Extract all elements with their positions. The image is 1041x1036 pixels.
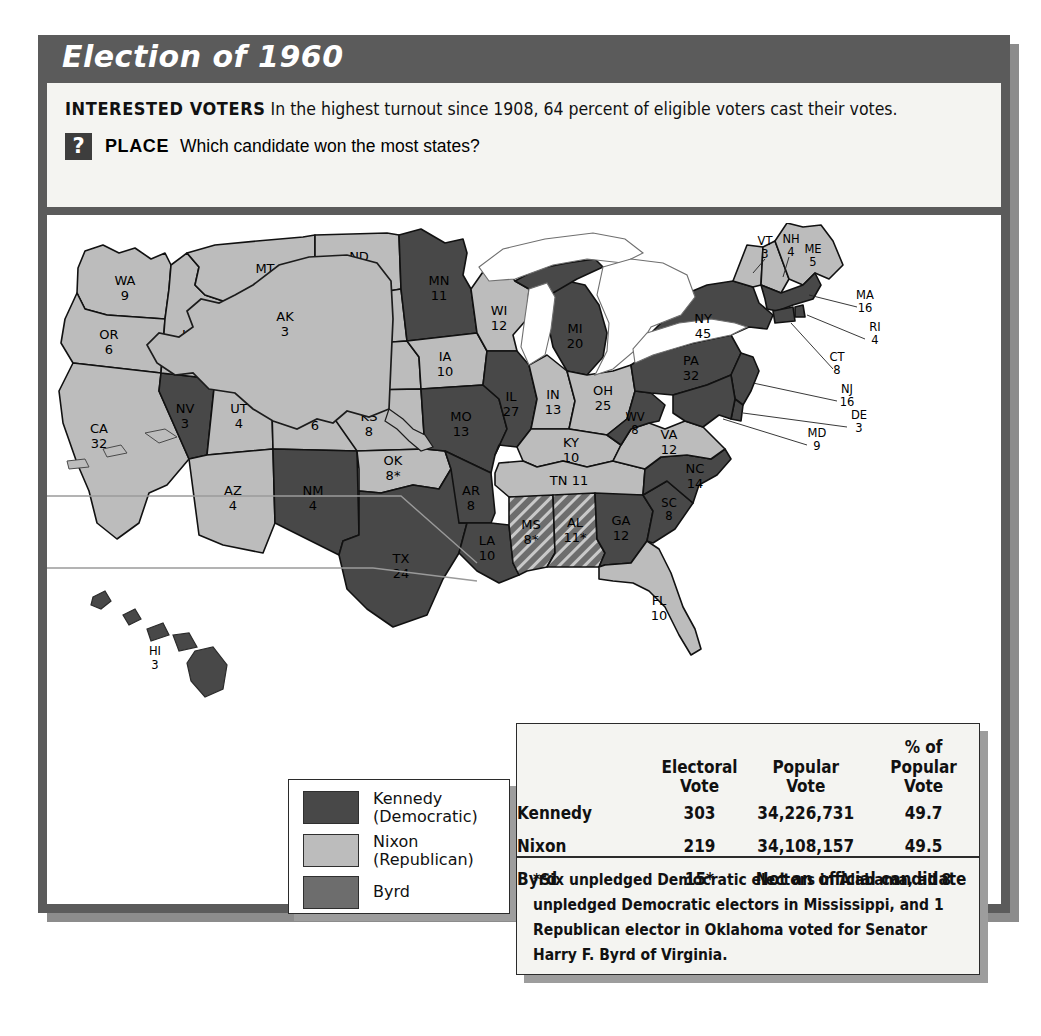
label-DE-votes: 3 [855, 421, 862, 435]
label-CT: CT [829, 350, 845, 364]
title-bar: Election of 1960 [38, 35, 1010, 83]
label-WI: WI [491, 303, 508, 318]
col-electoral-vote: Electoral Vote [656, 738, 744, 797]
label-NC: NC [686, 461, 705, 476]
label-NH: NH [782, 232, 799, 246]
label-MO: MO [450, 409, 471, 424]
table-header-row: Electoral Vote Popular Vote % of Popular… [517, 738, 979, 797]
label-WI-votes: 12 [491, 318, 508, 333]
label-OK: OK [384, 453, 403, 468]
label-AL: AL [567, 515, 584, 530]
label-WA: WA [114, 273, 135, 288]
label-MA-votes: 16 [858, 301, 873, 315]
label-TN: TN 11 [549, 473, 588, 488]
label-KY: KY [563, 435, 579, 450]
label-HI: HI [149, 644, 161, 658]
table-row: Nixon 219 34,108,157 49.5 [517, 830, 979, 863]
label-UT: UT [230, 401, 248, 416]
label-AK: AK [276, 309, 294, 324]
label-NY-votes: 45 [695, 326, 712, 341]
label-IA: IA [439, 349, 452, 364]
label-TX: TX [392, 551, 410, 566]
legend-label-nixon: Nixon (Republican) [373, 833, 474, 869]
label-KY-votes: 10 [563, 450, 580, 465]
label-WV-votes: 8 [631, 423, 638, 437]
legend-label-kennedy: Kennedy (Democratic) [373, 790, 478, 826]
caption-heading: INTERESTED VOTERS [65, 98, 266, 119]
kennedy-percent: 49.7 [868, 797, 979, 830]
label-MN-votes: 11 [431, 288, 448, 303]
label-NH-votes: 4 [787, 245, 794, 259]
label-MA: MA [856, 288, 874, 302]
label-LA-votes: 10 [479, 548, 496, 563]
caption-body-row: INTERESTED VOTERS In the highest turnout… [65, 97, 983, 122]
label-OK-votes: 8* [386, 468, 401, 483]
label-VT: VT [758, 234, 774, 248]
label-FL: FL [652, 593, 667, 608]
label-VA: VA [661, 427, 678, 442]
legend-item-byrd: Byrd [303, 876, 509, 909]
label-WA-votes: 9 [121, 288, 129, 303]
col-popular-vote: Popular Vote [743, 738, 868, 797]
label-MS: MS [521, 517, 540, 532]
legend-item-nixon: Nixon (Republican) [303, 833, 509, 869]
label-NJ-votes: 16 [840, 395, 855, 409]
label-CA: CA [90, 421, 108, 436]
place-question-row: ? PLACE Which candidate won the most sta… [65, 133, 983, 160]
label-RI-votes: 4 [871, 333, 878, 347]
label-IA-votes: 10 [437, 364, 454, 379]
label-ME-votes: 5 [809, 255, 816, 269]
legend-swatch-kennedy [303, 791, 359, 824]
label-MN: MN [429, 273, 450, 288]
label-MO-votes: 13 [453, 424, 470, 439]
label-MD-votes: 9 [813, 439, 820, 453]
label-LA: LA [479, 533, 496, 548]
label-CT-votes: 8 [833, 363, 840, 377]
label-OH-votes: 25 [595, 398, 612, 413]
label-OR-votes: 6 [105, 342, 113, 357]
label-MI-votes: 20 [567, 336, 584, 351]
label-PA: PA [683, 353, 699, 368]
legend-item-kennedy: Kennedy (Democratic) [303, 790, 509, 826]
label-VT-votes: 3 [761, 247, 768, 261]
label-UT-votes: 4 [235, 416, 243, 431]
label-GA: GA [612, 513, 631, 528]
legend-swatch-byrd [303, 876, 359, 909]
label-WV: WV [625, 410, 644, 424]
label-PA-votes: 32 [683, 368, 700, 383]
nixon-percent: 49.5 [868, 830, 979, 863]
place-label: PLACE [105, 136, 169, 157]
caption-panel: INTERESTED VOTERS In the highest turnout… [47, 83, 1001, 215]
label-NV-votes: 3 [181, 416, 189, 431]
nixon-electoral: 219 [656, 830, 744, 863]
label-RI: RI [869, 320, 880, 334]
page-title: Election of 1960 [62, 39, 344, 74]
hawaii-inset: HI 3 [91, 591, 227, 697]
label-ME: ME [804, 242, 821, 256]
table-footnote: *Six unpledged Democratic electors in Al… [533, 868, 965, 968]
label-SC: SC [661, 496, 676, 510]
label-GA-votes: 12 [613, 528, 630, 543]
label-OH: OH [593, 383, 613, 398]
row-candidate-kennedy: Kennedy [517, 797, 656, 830]
kennedy-popular: 34,226,731 [743, 797, 868, 830]
label-MI: MI [567, 321, 582, 336]
label-AR-votes: 8 [467, 498, 475, 513]
kennedy-electoral: 303 [656, 797, 744, 830]
label-AL-votes: 11* [563, 530, 587, 545]
label-FL-votes: 10 [651, 608, 668, 623]
caption-body: In the highest turnout since 1908, 64 pe… [271, 99, 898, 119]
label-AR: AR [462, 483, 480, 498]
legend-swatch-nixon [303, 834, 359, 867]
question-mark-icon: ? [65, 133, 92, 160]
state-TX [339, 469, 467, 627]
label-IN: IN [546, 387, 560, 402]
label-NY: NY [694, 311, 712, 326]
legend-label-byrd: Byrd [373, 883, 410, 901]
label-NM-votes: 4 [309, 498, 317, 513]
label-TX-votes: 24 [393, 566, 410, 581]
label-NC-votes: 14 [687, 476, 704, 491]
map-legend: Kennedy (Democratic) Nixon (Republican) … [288, 779, 510, 914]
place-question: Which candidate won the most states? [180, 136, 480, 157]
label-SC-votes: 8 [665, 509, 672, 523]
